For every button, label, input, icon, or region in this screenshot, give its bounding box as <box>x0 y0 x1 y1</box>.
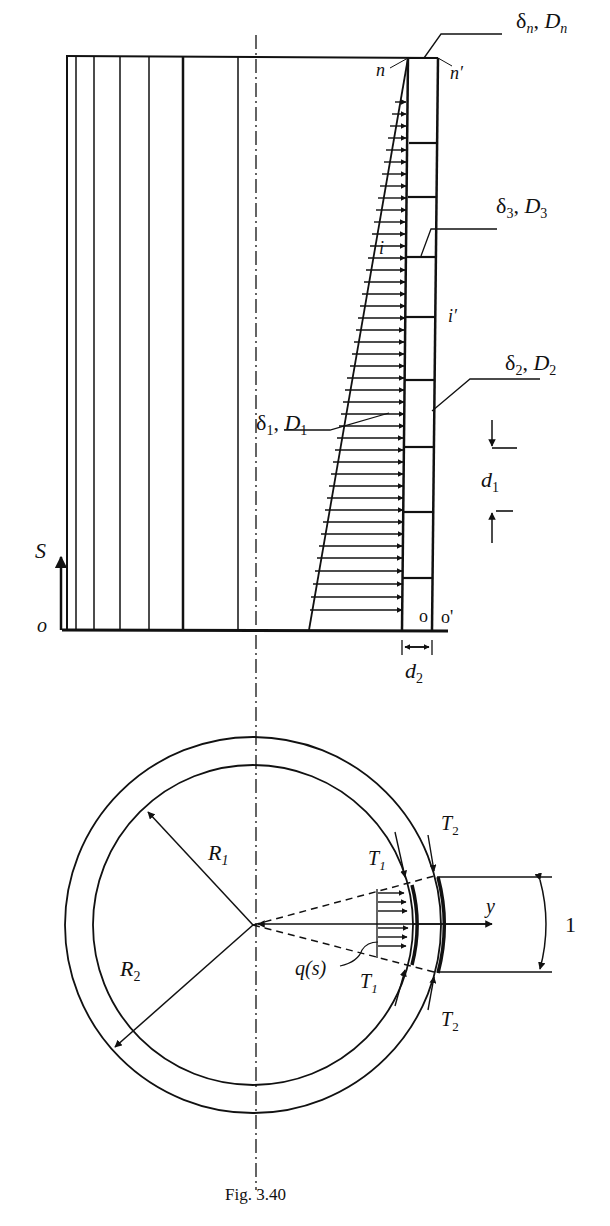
label-delta-n: δn, Dn <box>516 8 567 36</box>
cross-section <box>65 737 552 1113</box>
figure-canvas: δn, Dn n n′ δ3, D3 i i′ δ2, D2 δ1, D1 d1… <box>0 0 610 1226</box>
label-T1-bottom: T1 <box>360 970 378 996</box>
label-T1-top: T1 <box>368 847 386 873</box>
top-view <box>61 34 540 1190</box>
figure-caption: Fig. 3.40 <box>225 1185 286 1204</box>
load-arrows <box>310 102 406 610</box>
label-o-small: o <box>419 606 428 626</box>
label-delta-2: δ2, D2 <box>505 350 556 378</box>
label-dim-d2: d2 <box>405 658 423 686</box>
leader-d2 <box>432 379 540 411</box>
strip-divisions <box>403 143 437 578</box>
label-T2-bottom: T2 <box>441 1008 459 1034</box>
label-S: S <box>35 538 46 563</box>
label-dim-d1: d1 <box>481 467 499 495</box>
label-R1: R1 <box>207 840 228 868</box>
top-view-labels: δn, Dn n n′ δ3, D3 i i′ δ2, D2 δ1, D1 d1… <box>35 8 567 686</box>
label-i-prime: i′ <box>448 306 458 326</box>
label-T2-top: T2 <box>441 812 459 838</box>
leader-dn <box>424 34 502 58</box>
label-o: o <box>37 614 47 636</box>
label-q-s: q(s) <box>295 957 326 980</box>
label-n-prime: n′ <box>450 63 464 83</box>
cross-section-labels: R1 R2 T1 T1 T2 T2 y q(s) 1 <box>119 812 576 1034</box>
label-o-prime: o' <box>441 607 453 627</box>
label-delta-1: δ1, D1 <box>256 410 307 438</box>
label-y: y <box>484 895 495 918</box>
label-i: i <box>379 238 384 258</box>
leader-d3 <box>421 229 497 256</box>
label-angle-one: 1 <box>565 912 576 937</box>
label-R2: R2 <box>119 956 140 984</box>
label-delta-3: δ3, D3 <box>496 193 547 221</box>
label-n: n <box>376 60 385 80</box>
